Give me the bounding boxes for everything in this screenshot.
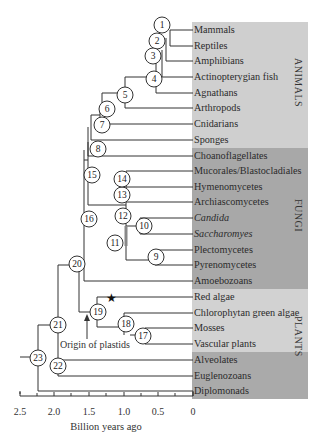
star-icon: ★ — [106, 291, 117, 306]
node-13: 13 — [114, 187, 131, 204]
leaf-arthropods: Arthropods — [194, 102, 240, 114]
node-16: 16 — [81, 211, 98, 228]
node-20: 20 — [69, 256, 86, 273]
node-15: 15 — [84, 167, 101, 184]
node-21: 21 — [50, 317, 67, 334]
axis-tick-1.0: 1.0 — [118, 406, 131, 417]
leaf-chlorophytan-green-algae: Chlorophytan green algae — [194, 307, 299, 319]
origin-of-plastids-label: Origin of plastids — [60, 339, 130, 350]
leaf-mucorales: Mucorales/Blastocladiales — [194, 165, 302, 177]
leaf-sponges: Sponges — [194, 134, 229, 146]
leaf-vascular-plants: Vascular plants — [194, 338, 256, 350]
node-1: 1 — [154, 17, 171, 34]
leaf-amoebozoans: Amoebozoans — [194, 275, 252, 287]
leaf-agnathans: Agnathans — [194, 87, 238, 99]
group-label-fungi: FUNGI — [293, 199, 304, 232]
axis-tick-1.5: 1.5 — [83, 406, 96, 417]
leaf-cnidarians: Cnidarians — [194, 118, 238, 130]
node-5: 5 — [117, 87, 134, 104]
leaf-candida: Candida — [194, 212, 229, 224]
leaf-mammals: Mammals — [194, 24, 235, 36]
phylogenetic-tree — [0, 0, 324, 445]
node-17: 17 — [135, 328, 152, 345]
leaf-alveolates: Alveolates — [194, 354, 238, 366]
leaf-mosses: Mosses — [194, 322, 225, 334]
group-label-animals: ANIMALS — [293, 58, 304, 107]
leaf-hymenomycetes: Hymenomycetes — [194, 181, 262, 193]
leaf-choanoflagellates: Choanoflagellates — [194, 150, 268, 162]
leaf-amphibians: Amphibians — [194, 55, 244, 67]
node-22: 22 — [50, 358, 67, 375]
leaf-actinopterygian-fish: Actinopterygian fish — [194, 71, 278, 83]
node-23: 23 — [30, 350, 47, 367]
leaf-euglenozoans: Euglenozoans — [194, 370, 251, 382]
node-11: 11 — [107, 235, 124, 252]
leaf-saccharomyes: Saccharomyes — [194, 228, 252, 240]
axis-tick-0.5: 0.5 — [152, 406, 165, 417]
leaf-red-algae: Red algae — [194, 291, 234, 303]
axis-tick-2.5: 2.5 — [14, 406, 27, 417]
leaf-reptiles: Reptiles — [194, 40, 227, 52]
leaf-diplomonads: Diplomonads — [194, 385, 249, 397]
leaf-plectomycetes: Plectomycetes — [194, 244, 253, 256]
node-6: 6 — [99, 101, 116, 118]
leaf-pyrenomycetes: Pyrenomycetes — [194, 259, 256, 271]
axis-tick-0: 0 — [191, 406, 196, 417]
group-label-plants: PLANTS — [293, 316, 304, 357]
node-19: 19 — [90, 304, 107, 321]
leaf-archiascomycetes: Archiascomycetes — [194, 196, 269, 208]
node-4: 4 — [146, 71, 163, 88]
node-9: 9 — [148, 249, 165, 266]
node-14: 14 — [114, 171, 131, 188]
node-3: 3 — [145, 48, 162, 65]
axis-title: Billion years ago — [70, 421, 142, 432]
node-10: 10 — [136, 218, 153, 235]
node-12: 12 — [115, 208, 132, 225]
node-8: 8 — [90, 141, 107, 158]
axis-tick-2.0: 2.0 — [48, 406, 61, 417]
node-7: 7 — [94, 117, 111, 134]
node-18: 18 — [118, 316, 135, 333]
